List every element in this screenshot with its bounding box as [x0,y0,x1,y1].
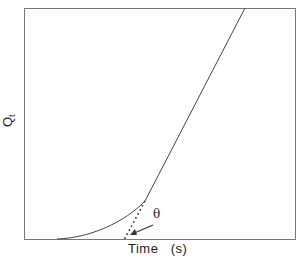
steady-state-line [145,8,245,201]
plot-frame [25,9,296,240]
arrow-head-icon [130,229,137,235]
y-axis-label: Qt [0,114,17,127]
x-axis-label: Time (s) [128,241,187,256]
theta-annotation: θ [153,207,160,221]
plot-area [0,0,299,260]
